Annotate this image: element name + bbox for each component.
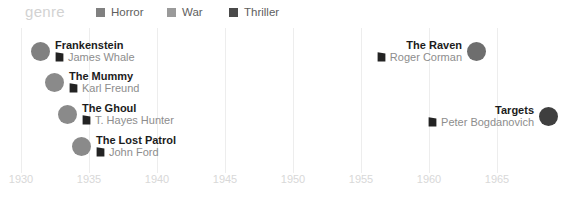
film-title: Frankenstein [55, 39, 123, 51]
film-director-row: T. Hayes Hunter [82, 114, 174, 126]
film-title: Targets [495, 104, 534, 116]
film-director: John Ford [109, 146, 159, 158]
film-text: The RavenRoger Corman [372, 39, 467, 64]
x-axis-tick-label: 1930 [9, 173, 33, 185]
film-entry[interactable]: The RavenRoger Corman [372, 39, 486, 64]
legend-item-horror[interactable]: Horror [96, 6, 144, 18]
legend-title: genre [25, 3, 65, 20]
film-title: The Lost Patrol [96, 134, 176, 146]
film-marker-icon [55, 52, 64, 62]
x-axis-tick-label: 1955 [349, 173, 373, 185]
film-text: FrankensteinJames Whale [50, 39, 140, 64]
x-axis-tick-label: 1945 [213, 173, 237, 185]
x-axis-tick-label: 1935 [77, 173, 101, 185]
legend: genre HorrorWarThriller [0, 0, 572, 28]
legend-item-label: War [182, 6, 203, 18]
film-dot[interactable] [58, 105, 77, 124]
film-director-row: James Whale [55, 51, 135, 63]
film-director-row: Roger Corman [377, 51, 462, 63]
film-dot[interactable] [467, 42, 486, 61]
film-entry[interactable]: The MummyKarl Freund [45, 70, 144, 95]
legend-item-label: Horror [111, 6, 144, 18]
film-dot[interactable] [31, 42, 50, 61]
film-title: The Mummy [69, 70, 133, 82]
film-text: The GhoulT. Hayes Hunter [77, 102, 179, 127]
film-director: James Whale [68, 51, 135, 63]
film-director-row: Karl Freund [69, 82, 139, 94]
film-dot[interactable] [539, 107, 558, 126]
gridline-1955 [361, 28, 362, 173]
gridline-1965 [497, 28, 498, 173]
film-marker-icon [82, 115, 91, 125]
film-director-row: John Ford [96, 146, 159, 158]
legend-swatch-icon [229, 8, 238, 17]
film-director: Roger Corman [390, 51, 462, 63]
gridline-1930 [21, 28, 22, 173]
gridline-1945 [225, 28, 226, 173]
legend-item-thriller[interactable]: Thriller [229, 6, 279, 18]
film-marker-icon [96, 147, 105, 157]
film-title: The Ghoul [82, 102, 136, 114]
film-entry[interactable]: The Lost PatrolJohn Ford [72, 134, 181, 159]
film-text: TargetsPeter Bogdanovich [423, 104, 539, 129]
legend-swatch-icon [167, 8, 176, 17]
film-marker-icon [428, 117, 437, 127]
legend-item-label: Thriller [244, 6, 279, 18]
film-title: The Raven [406, 39, 462, 51]
film-director: Peter Bogdanovich [441, 116, 534, 128]
x-axis-tick-label: 1940 [145, 173, 169, 185]
film-text: The MummyKarl Freund [64, 70, 144, 95]
genre-timeline-chart: genre HorrorWarThriller FrankensteinJame… [0, 0, 572, 197]
film-dot[interactable] [45, 73, 64, 92]
film-director: T. Hayes Hunter [95, 114, 174, 126]
x-axis-tick-label: 1950 [281, 173, 305, 185]
film-entry[interactable]: FrankensteinJames Whale [31, 39, 140, 64]
film-text: The Lost PatrolJohn Ford [91, 134, 181, 159]
legend-item-war[interactable]: War [167, 6, 203, 18]
film-director-row: Peter Bogdanovich [428, 116, 534, 128]
x-axis-tick-label: 1960 [417, 173, 441, 185]
x-axis-tick-label: 1965 [485, 173, 509, 185]
legend-swatch-icon [96, 8, 105, 17]
film-director: Karl Freund [82, 82, 139, 94]
film-marker-icon [377, 52, 386, 62]
gridline-1950 [293, 28, 294, 173]
film-dot[interactable] [72, 137, 91, 156]
x-axis: 19301935194019451950195519601965 [0, 173, 572, 197]
film-entry[interactable]: The GhoulT. Hayes Hunter [58, 102, 179, 127]
film-marker-icon [69, 83, 78, 93]
film-entry[interactable]: TargetsPeter Bogdanovich [423, 104, 558, 129]
